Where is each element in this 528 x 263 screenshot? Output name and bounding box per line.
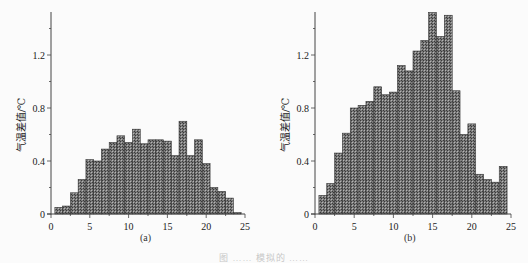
svg-text:1.2: 1.2 — [33, 50, 46, 61]
bar — [164, 141, 172, 214]
bar — [148, 140, 156, 214]
bar — [156, 140, 164, 214]
bar — [358, 105, 366, 214]
bar — [476, 174, 484, 214]
bar — [460, 135, 468, 215]
figure-caption: 图 …… 模拟的 …… — [0, 251, 528, 263]
bar — [195, 140, 203, 214]
panel-label-b: (b) — [404, 232, 416, 243]
bar — [132, 129, 140, 214]
y-axis-label: 气温差值/℃ — [15, 98, 27, 153]
bar — [397, 66, 405, 214]
bar — [413, 51, 421, 214]
chart-a-plot: 00.40.81.20510152025气温差值/℃ — [0, 0, 264, 263]
bar — [226, 198, 234, 214]
chart-a: 00.40.81.20510152025气温差值/℃ (a) — [0, 0, 264, 263]
bar — [499, 166, 507, 214]
bar — [171, 156, 179, 214]
bar — [444, 15, 452, 214]
bar — [468, 124, 476, 214]
bar — [429, 13, 437, 214]
bar — [335, 153, 343, 214]
svg-text:20: 20 — [201, 221, 211, 232]
svg-text:15: 15 — [428, 221, 438, 232]
bar — [86, 160, 94, 214]
bar — [405, 71, 413, 214]
bar — [484, 180, 492, 214]
bar — [366, 101, 374, 214]
bar — [94, 161, 102, 214]
bar — [101, 149, 109, 214]
bar — [70, 193, 78, 214]
svg-text:10: 10 — [124, 221, 134, 232]
bar — [63, 206, 71, 214]
chart-b-plot: 00.40.81.20510152025气温差值/℃ — [264, 0, 528, 263]
svg-text:25: 25 — [506, 221, 516, 232]
bar — [389, 92, 397, 214]
bar — [117, 136, 125, 214]
bar — [202, 164, 210, 214]
svg-text:20: 20 — [467, 221, 477, 232]
bar — [421, 40, 429, 214]
svg-text:0.8: 0.8 — [33, 103, 46, 114]
svg-text:1.2: 1.2 — [297, 50, 310, 61]
svg-text:0: 0 — [40, 209, 45, 220]
svg-text:0.4: 0.4 — [297, 156, 310, 167]
svg-text:0.8: 0.8 — [297, 103, 310, 114]
panel-label-a: (a) — [140, 232, 151, 243]
svg-text:5: 5 — [352, 221, 357, 232]
bar — [319, 195, 327, 214]
chart-b: 00.40.81.20510152025气温差值/℃ (b) — [264, 0, 528, 263]
bar — [109, 142, 117, 214]
bar — [140, 144, 148, 214]
bar — [78, 180, 86, 214]
bar — [179, 121, 187, 214]
bar — [437, 36, 445, 214]
bar — [327, 184, 335, 214]
bar — [382, 95, 390, 214]
bar — [210, 188, 218, 215]
bar — [491, 182, 499, 214]
bar — [374, 87, 382, 214]
bar — [350, 108, 358, 214]
svg-text:25: 25 — [240, 221, 250, 232]
bar — [125, 142, 133, 214]
y-axis-label: 气温差值/℃ — [279, 98, 291, 153]
svg-text:10: 10 — [388, 221, 398, 232]
bar — [218, 191, 226, 214]
svg-text:5: 5 — [87, 221, 92, 232]
bar — [187, 156, 195, 214]
svg-text:0: 0 — [313, 221, 318, 232]
svg-text:0.4: 0.4 — [33, 156, 46, 167]
svg-text:0: 0 — [49, 221, 54, 232]
svg-text:0: 0 — [304, 209, 309, 220]
bar — [55, 207, 63, 214]
bar — [342, 133, 350, 214]
bar — [452, 91, 460, 214]
svg-text:15: 15 — [162, 221, 172, 232]
